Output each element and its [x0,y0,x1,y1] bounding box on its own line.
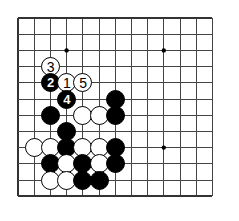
stone-move-number: 5 [79,76,86,90]
stone-black [106,106,125,125]
stone-black [41,106,60,125]
stone-black [90,171,109,190]
numbered-stone-4: 4 [57,90,76,109]
stone-black [106,154,125,173]
go-board-diagram: 32154 [0,0,239,221]
numbered-stone-5: 5 [73,73,92,92]
stone-move-number: 2 [47,76,54,89]
stone-move-number: 4 [63,93,70,106]
stone-move-number: 3 [47,60,54,74]
stone-move-number: 1 [63,76,70,90]
stone-layer: 32154 [0,0,239,221]
